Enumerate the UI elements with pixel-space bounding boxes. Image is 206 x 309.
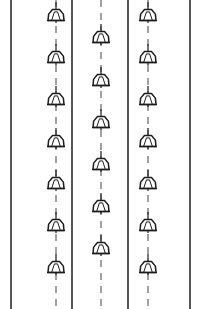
- fixture-body: [93, 75, 109, 86]
- lamp-fixture-icon: [47, 128, 65, 149]
- lamp-fixture-icon: [139, 170, 157, 191]
- fixture-body: [93, 201, 109, 212]
- fixture-body: [140, 262, 156, 273]
- lamp-fixture-icon: [47, 254, 65, 275]
- fixture-body: [140, 220, 156, 231]
- fixture-body: [140, 94, 156, 105]
- centerline-group: [56, 0, 148, 309]
- lamp-fixture-icon: [139, 44, 157, 65]
- lamp-fixture-icon: [139, 212, 157, 233]
- lighting-layout-diagram: [0, 0, 206, 309]
- fixture-body: [48, 10, 64, 21]
- lamp-fixture-icon: [92, 151, 110, 172]
- fixture-body: [48, 178, 64, 189]
- diagram-svg-surface: [0, 0, 206, 309]
- fixture-body: [93, 32, 109, 43]
- lamp-fixture-icon: [47, 86, 65, 107]
- fixture-body: [48, 262, 64, 273]
- fixture-body: [140, 52, 156, 63]
- lamp-fixture-icon: [139, 2, 157, 23]
- lamp-fixture-icon: [139, 254, 157, 275]
- fixture-body: [48, 94, 64, 105]
- fixture-body: [140, 178, 156, 189]
- lamp-fixture-icon: [47, 2, 65, 23]
- fixture-symbol-group: [47, 2, 157, 275]
- lamp-fixture-icon: [92, 109, 110, 130]
- lamp-fixture-icon: [47, 212, 65, 233]
- lamp-fixture-icon: [47, 44, 65, 65]
- fixture-body: [48, 220, 64, 231]
- lamp-fixture-icon: [139, 128, 157, 149]
- fixture-body: [48, 136, 64, 147]
- lamp-fixture-icon: [92, 67, 110, 88]
- fixture-body: [48, 52, 64, 63]
- lamp-fixture-icon: [139, 86, 157, 107]
- fixture-body: [93, 243, 109, 254]
- lamp-fixture-icon: [47, 170, 65, 191]
- lamp-fixture-icon: [92, 235, 110, 256]
- fixture-body: [140, 136, 156, 147]
- lamp-fixture-icon: [92, 24, 110, 45]
- lamp-fixture-icon: [92, 193, 110, 214]
- fixture-body: [93, 117, 109, 128]
- fixture-body: [93, 159, 109, 170]
- fixture-body: [140, 10, 156, 21]
